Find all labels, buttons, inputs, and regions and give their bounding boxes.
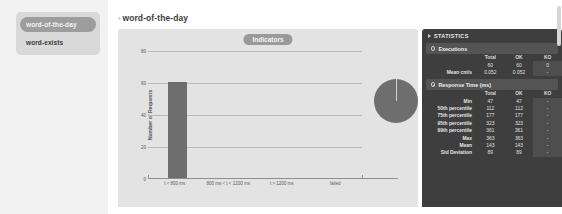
chevron-right-icon: › — [118, 15, 120, 22]
cell-ok: 143 — [505, 142, 534, 149]
table-row: 95th percentile 323 323 - — [422, 120, 562, 127]
table-row: 50th percentile 112 112 - — [422, 105, 562, 112]
sidebar-item-word-of-the-day[interactable]: word-of-the-day — [20, 17, 96, 32]
sidebar-item-label: word-of-the-day — [26, 21, 77, 28]
x-tick-label: 800 ms < t < 1200 ms — [202, 181, 256, 187]
table-row: Mean cnt/s 0.052 0.052 - — [422, 69, 562, 76]
triangle-right-icon — [428, 34, 431, 38]
response-time-table: Total OK KO Min 47 47 - 50th percentile … — [422, 90, 562, 156]
row-label: 95th percentile — [422, 120, 476, 127]
table-row: Std Deviation 89 89 - — [422, 149, 562, 156]
row-label: Std Deviation — [422, 149, 476, 156]
cell-total: 177 — [476, 112, 505, 119]
row-label: 50th percentile — [422, 105, 476, 112]
indicators-plot: Number of Requests 80 60 40 20 0 — [148, 51, 398, 179]
cell-ko: - — [533, 134, 562, 141]
cell-ok: 47 — [505, 98, 534, 105]
cell-total: 60 — [476, 61, 505, 68]
sidebar-item-label: word-exists — [26, 39, 63, 46]
table-corner — [422, 90, 476, 97]
cell-ok: 60 — [505, 61, 534, 68]
row-label — [422, 61, 476, 68]
column-header-ok: OK — [505, 54, 534, 61]
section-title: Response Time (ms) — [438, 82, 491, 88]
indicators-chart-panel: Indicators Number of Requests 80 60 40 2… — [118, 29, 418, 207]
circle-minus-icon — [431, 82, 435, 86]
cell-ko: 0 — [533, 61, 562, 68]
sidebar-item-word-exists[interactable]: word-exists — [20, 35, 96, 50]
cell-total: 89 — [476, 149, 505, 156]
executions-table: Total OK KO 60 60 0 Mean cnt/s 0.052 0.0… — [422, 54, 562, 76]
sidebar: word-of-the-day word-exists — [0, 0, 109, 214]
breadcrumb-label: word-of-the-day — [122, 13, 188, 23]
section-header-executions[interactable]: Executions — [426, 43, 558, 54]
y-tick-label: 80 — [134, 49, 146, 54]
row-label: Max — [422, 134, 476, 141]
table-row: 75th percentile 177 177 - — [422, 112, 562, 119]
statistics-panel: STATISTICS Executions Total OK KO 60 60 … — [422, 29, 562, 207]
cell-ko: - — [533, 112, 562, 119]
y-tick-label: 60 — [134, 81, 146, 86]
row-label: 99th percentile — [422, 127, 476, 134]
table-row: Min 47 47 - — [422, 98, 562, 105]
y-tick-label: 20 — [134, 145, 146, 150]
y-tick-label: 0 — [134, 177, 146, 182]
main-content: ›word-of-the-day Indicators Number of Re… — [108, 0, 562, 214]
gridline — [148, 51, 362, 52]
column-header-ko: KO — [533, 90, 562, 97]
y-tick-label: 40 — [134, 113, 146, 118]
x-axis-labels: t < 800 ms 800 ms < t < 1200 ms t > 1200… — [148, 181, 362, 187]
x-axis-tick — [148, 175, 149, 179]
table-row: Max 363 363 - — [422, 134, 562, 141]
spacer — [422, 76, 562, 78]
chart-title: Indicators — [243, 34, 292, 45]
cell-ko: - — [533, 105, 562, 112]
statistics-title: STATISTICS — [434, 33, 469, 39]
cell-ok: 89 — [505, 149, 534, 156]
sidebar-nav-panel: word-of-the-day word-exists — [16, 12, 100, 55]
pie-slice-divider — [396, 79, 397, 101]
row-label: 75th percentile — [422, 112, 476, 119]
section-header-response-time[interactable]: Response Time (ms) — [426, 79, 558, 90]
cell-total: 0.052 — [476, 69, 505, 76]
indicators-pie-chart[interactable] — [374, 79, 418, 123]
cell-ko: - — [533, 127, 562, 134]
cell-ok: 112 — [505, 105, 534, 112]
column-header-total: Total — [476, 54, 505, 61]
column-header-total: Total — [476, 90, 505, 97]
column-header-ok: OK — [505, 90, 534, 97]
bar-t-lt-800ms[interactable] — [168, 82, 187, 178]
cell-ko: - — [533, 69, 562, 76]
cell-ko: - — [533, 142, 562, 149]
cell-total: 112 — [476, 105, 505, 112]
cell-ok: 361 — [505, 127, 534, 134]
table-row: Mean 143 143 - — [422, 142, 562, 149]
section-title: Executions — [438, 46, 467, 52]
x-tick-label: t > 1200 ms — [255, 181, 309, 187]
cell-ko: - — [533, 149, 562, 156]
scrollbar-vertical[interactable] — [557, 6, 561, 46]
cell-total: 361 — [476, 127, 505, 134]
cell-total: 363 — [476, 134, 505, 141]
statistics-header[interactable]: STATISTICS — [422, 29, 562, 42]
table-corner — [422, 54, 476, 61]
row-label: Mean cnt/s — [422, 69, 476, 76]
row-label: Mean — [422, 142, 476, 149]
table-row: 99th percentile 361 361 - — [422, 127, 562, 134]
row-label: Min — [422, 98, 476, 105]
table-header-row: Total OK KO — [422, 90, 562, 97]
cell-ko: - — [533, 98, 562, 105]
table-row: 60 60 0 — [422, 61, 562, 68]
cell-total: 323 — [476, 120, 505, 127]
x-tick-label: failed — [309, 181, 363, 187]
table-header-row: Total OK KO — [422, 54, 562, 61]
cell-ok: 0.052 — [505, 69, 534, 76]
circle-icon — [431, 46, 435, 50]
column-header-ko: KO — [533, 54, 562, 61]
x-axis-line — [148, 178, 398, 179]
breadcrumb[interactable]: ›word-of-the-day — [118, 13, 188, 23]
cell-total: 143 — [476, 142, 505, 149]
cell-ok: 363 — [505, 134, 534, 141]
x-tick-label: t < 800 ms — [148, 181, 202, 187]
cell-total: 47 — [476, 98, 505, 105]
